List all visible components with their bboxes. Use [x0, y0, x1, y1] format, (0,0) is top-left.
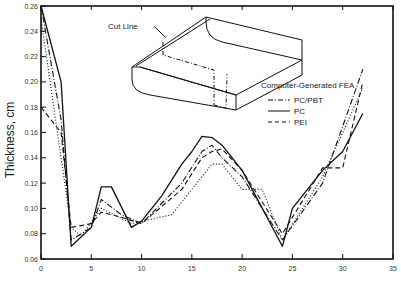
x-tick-label: 20	[238, 265, 246, 272]
x-tick-label: 30	[339, 265, 347, 272]
inset-part-drawing	[132, 17, 302, 110]
y-tick-label: 0.08	[24, 230, 38, 237]
x-tick-label: 25	[289, 265, 297, 272]
y-axis: 0.060.080.100.120.140.160.180.200.220.24…	[24, 3, 46, 263]
series-pc	[41, 6, 363, 246]
y-tick-label: 0.18	[24, 104, 38, 111]
y-tick-label: 0.20	[24, 78, 38, 85]
y-tick-label: 0.06	[24, 256, 38, 263]
legend-item-pc: PC	[294, 107, 305, 116]
x-tick-label: 35	[389, 265, 397, 272]
thickness-chart: 05101520253035 0.060.080.100.120.140.160…	[0, 0, 401, 288]
y-tick-label: 0.12	[24, 180, 38, 187]
series-layer	[41, 6, 363, 246]
cut-line-pointer	[154, 26, 166, 38]
box-part-drawing-icon	[132, 17, 302, 110]
x-tick-label: 10	[138, 265, 146, 272]
series-pc-pbt	[41, 6, 363, 240]
y-tick-label: 0.24	[24, 28, 38, 35]
x-tick-label: 5	[89, 265, 93, 272]
legend-item-pei: PEI	[294, 118, 307, 127]
legend: Computer-Generated FEA PC/PBT PC PEI	[261, 81, 355, 127]
y-axis-label: Thickness, cm	[3, 102, 17, 179]
y-tick-label: 0.26	[24, 3, 38, 10]
x-tick-label: 15	[188, 265, 196, 272]
cut-line-dashed	[163, 42, 227, 108]
x-axis: 05101520253035	[39, 6, 397, 272]
y-tick-label: 0.10	[24, 205, 38, 212]
legend-item-pc-pbt: PC/PBT	[294, 96, 323, 105]
y-tick-label: 0.16	[24, 129, 38, 136]
y-tick-label: 0.14	[24, 154, 38, 161]
cut-line-label: Cut Line	[108, 22, 138, 31]
y-tick-label: 0.22	[24, 53, 38, 60]
legend-title: Computer-Generated FEA	[261, 81, 355, 90]
series-computer-generated-fea	[41, 19, 363, 240]
x-tick-label: 0	[39, 265, 43, 272]
